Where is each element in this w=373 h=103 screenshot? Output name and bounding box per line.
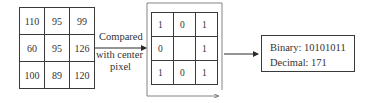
binary-threshold-grid: 1 0 1 0 1 1 0 1 <box>151 12 218 85</box>
binary-cell: 0 <box>174 13 196 37</box>
binary-cell: 1 <box>152 13 174 37</box>
binary-cell: 0 <box>152 37 174 61</box>
binary-cell: 0 <box>174 61 196 85</box>
binary-cell: 1 <box>152 61 174 85</box>
binary-cell: 1 <box>196 13 218 37</box>
result-box: Binary: 10101011 Decimal: 171 <box>261 35 355 72</box>
decimal-result: Decimal: 171 <box>270 55 354 70</box>
binary-result: Binary: 10101011 <box>270 40 354 55</box>
binary-cell: 1 <box>196 61 218 85</box>
binary-cell-center <box>174 37 196 61</box>
binary-cell: 1 <box>196 37 218 61</box>
